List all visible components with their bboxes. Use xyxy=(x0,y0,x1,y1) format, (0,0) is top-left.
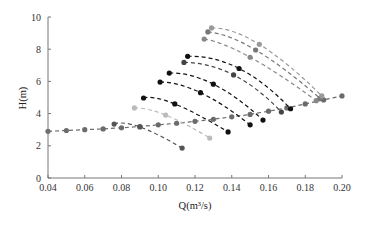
data-point xyxy=(205,29,210,34)
series-line xyxy=(144,97,229,132)
data-point xyxy=(172,101,177,106)
data-point xyxy=(257,42,262,47)
data-point xyxy=(174,121,179,126)
y-tick-label: 10 xyxy=(31,12,41,23)
data-point xyxy=(157,79,162,84)
x-tick-label: 0.06 xyxy=(76,182,94,193)
data-point xyxy=(211,82,216,87)
data-point xyxy=(64,128,69,133)
data-point xyxy=(192,119,197,124)
x-tick-label: 0.20 xyxy=(333,182,351,193)
data-point xyxy=(248,112,253,117)
data-point xyxy=(180,145,185,150)
data-point xyxy=(266,109,271,114)
x-tick-label: 0.12 xyxy=(186,182,204,193)
x-axis-title: Q(m³/s) xyxy=(179,200,212,212)
data-point xyxy=(279,109,284,114)
data-point xyxy=(209,25,214,30)
y-tick-label: 4 xyxy=(36,108,41,119)
data-point xyxy=(229,114,234,119)
data-point xyxy=(112,121,117,126)
data-point xyxy=(253,47,258,52)
x-tick-label: 0.04 xyxy=(39,182,57,193)
chart: 0.040.060.080.100.120.140.160.180.20 024… xyxy=(0,0,372,226)
data-point xyxy=(101,126,106,131)
series-pump-curve-3 xyxy=(141,95,231,134)
data-point xyxy=(132,105,137,110)
x-tick-label: 0.18 xyxy=(297,182,315,193)
series-line xyxy=(134,108,209,138)
data-point xyxy=(202,36,207,41)
series-line xyxy=(48,96,342,131)
data-point xyxy=(237,66,242,71)
data-point xyxy=(225,129,230,134)
x-tick-label: 0.10 xyxy=(150,182,168,193)
data-point xyxy=(198,90,203,95)
data-point xyxy=(82,127,87,132)
x-tick-label: 0.08 xyxy=(113,182,131,193)
y-tick-label: 2 xyxy=(36,140,41,151)
plot-area xyxy=(45,25,344,150)
data-point xyxy=(167,70,172,75)
y-axis-title: H(m) xyxy=(17,86,29,109)
data-point xyxy=(163,112,168,117)
data-point xyxy=(319,93,324,98)
data-point xyxy=(260,117,265,122)
y-tick-label: 0 xyxy=(36,173,41,184)
axes: 0.040.060.080.100.120.140.160.180.20 024… xyxy=(17,12,351,213)
y-tick-label: 6 xyxy=(36,76,41,87)
data-point xyxy=(137,124,142,129)
x-tick-label: 0.16 xyxy=(260,182,278,193)
data-point xyxy=(181,60,186,65)
data-point xyxy=(207,135,212,140)
data-point xyxy=(288,106,293,111)
series-pump-curve-2 xyxy=(132,105,213,140)
data-point xyxy=(119,125,124,130)
data-point xyxy=(248,55,253,60)
data-point xyxy=(339,93,344,98)
data-point xyxy=(231,72,236,77)
series-pump-curve-7 xyxy=(185,54,293,112)
data-point xyxy=(248,122,253,127)
data-point xyxy=(211,117,216,122)
data-point xyxy=(156,122,161,127)
data-point xyxy=(185,54,190,59)
data-point xyxy=(303,101,308,106)
series-line xyxy=(114,123,182,148)
series-system-curve xyxy=(45,93,344,134)
series-line xyxy=(188,56,291,109)
x-tick-label: 0.14 xyxy=(223,182,241,193)
y-tick-label: 8 xyxy=(36,44,41,55)
data-point xyxy=(141,95,146,100)
